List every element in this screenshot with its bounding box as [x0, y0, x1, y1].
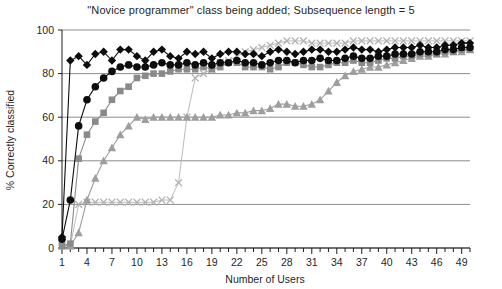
- data-point-circle: [183, 59, 191, 67]
- data-point-circle: [216, 59, 224, 67]
- data-point-diamond: [324, 48, 332, 56]
- data-point-diamond: [66, 56, 74, 64]
- data-point-triangle: [74, 229, 82, 237]
- data-point-diamond: [191, 50, 199, 58]
- data-point-square: [75, 155, 82, 162]
- data-point-diamond: [416, 41, 424, 49]
- data-point-diamond: [224, 48, 232, 56]
- data-point-square: [134, 75, 141, 82]
- y-axis-tick-label: 100: [36, 24, 54, 36]
- data-point-circle: [200, 59, 208, 67]
- series-line: [62, 41, 470, 246]
- x-axis-tick-label: 40: [381, 256, 393, 268]
- data-point-circle: [241, 59, 249, 67]
- y-axis-tick-label: 60: [42, 111, 54, 123]
- series-line: [62, 50, 470, 246]
- data-point-triangle: [108, 144, 116, 152]
- series-line: [62, 50, 470, 246]
- x-axis-tick-label: 25: [256, 256, 268, 268]
- x-axis-tick-label: 4: [84, 256, 90, 268]
- data-point-triangle: [333, 78, 341, 86]
- data-point-square: [275, 64, 282, 71]
- series-line: [62, 47, 470, 239]
- data-point-circle: [191, 61, 199, 69]
- x-axis-tick-label: 28: [281, 256, 293, 268]
- data-point-square: [308, 64, 315, 71]
- data-point-square: [150, 70, 157, 77]
- data-point-diamond: [291, 50, 299, 58]
- data-point-square: [84, 131, 91, 138]
- data-point-triangle: [91, 174, 99, 182]
- data-point-square: [142, 72, 149, 79]
- y-axis-tick-label: 40: [42, 154, 54, 166]
- x-axis-tick-label: 43: [406, 256, 418, 268]
- data-point-circle: [316, 55, 324, 63]
- data-point-circle: [275, 57, 283, 65]
- data-point-square: [59, 243, 66, 250]
- data-point-circle: [341, 55, 349, 63]
- data-point-circle: [166, 61, 174, 69]
- data-point-diamond: [91, 50, 99, 58]
- x-axis-tick-label: 10: [131, 256, 143, 268]
- chart-plot-svg: 020406080100 147101316192225283134374043…: [0, 0, 502, 289]
- data-point-diamond: [116, 45, 124, 53]
- x-axis-tick-label: 7: [109, 256, 115, 268]
- series-line: [62, 43, 470, 237]
- x-axis-tick-label: 16: [181, 256, 193, 268]
- data-point-diamond: [258, 52, 266, 60]
- data-point-circle: [366, 55, 374, 63]
- chart-container: "Novice programmer" class being added; S…: [0, 0, 502, 289]
- data-point-circle: [258, 61, 266, 69]
- data-point-circle: [92, 83, 100, 91]
- x-axis-group: 1471013161922252831343740434649: [59, 248, 470, 268]
- data-point-cross: [258, 44, 265, 51]
- series-group: [58, 38, 474, 250]
- data-point-circle: [133, 63, 141, 71]
- data-point-square: [159, 70, 166, 77]
- data-point-diamond: [383, 45, 391, 53]
- y-axis-tick-label: 80: [42, 67, 54, 79]
- data-point-circle: [108, 68, 116, 76]
- data-point-circle: [283, 57, 291, 65]
- data-point-circle: [266, 59, 274, 67]
- data-point-circle: [150, 61, 158, 69]
- x-axis-tick-label: 19: [206, 256, 218, 268]
- x-axis-tick-label: 22: [231, 256, 243, 268]
- x-axis-tick-label: 49: [456, 256, 468, 268]
- data-point-square: [317, 64, 324, 71]
- data-point-diamond: [249, 50, 257, 58]
- data-point-diamond: [366, 45, 374, 53]
- y-axis-tick-label: 20: [42, 198, 54, 210]
- data-point-circle: [233, 57, 241, 65]
- data-point-diamond: [216, 50, 224, 58]
- data-point-circle: [308, 57, 316, 65]
- data-point-circle: [350, 52, 358, 60]
- data-point-circle: [116, 63, 124, 71]
- y-axis-group: 020406080100: [36, 24, 62, 254]
- data-point-circle: [83, 96, 91, 104]
- data-point-square: [125, 83, 132, 90]
- series-triangle: [58, 45, 474, 249]
- data-point-circle: [100, 74, 108, 82]
- data-point-circle: [291, 59, 299, 67]
- data-point-square: [167, 68, 174, 75]
- data-point-circle: [125, 61, 133, 69]
- data-point-square: [117, 88, 124, 95]
- data-point-diamond: [333, 48, 341, 56]
- data-point-square: [184, 66, 191, 73]
- data-point-circle: [75, 122, 83, 130]
- x-axis-title: Number of Users: [225, 273, 304, 285]
- data-point-square: [109, 96, 116, 103]
- data-point-square: [67, 240, 74, 247]
- gridlines-group: [62, 30, 470, 248]
- data-point-square: [92, 118, 99, 125]
- data-point-circle: [325, 57, 333, 65]
- y-axis-title: % Correctly classified: [4, 90, 16, 191]
- data-point-circle: [333, 57, 341, 65]
- x-axis-tick-label: 46: [431, 256, 443, 268]
- data-point-triangle: [308, 100, 316, 108]
- data-point-circle: [358, 55, 366, 63]
- data-point-circle: [67, 196, 75, 204]
- data-point-triangle: [266, 104, 274, 112]
- series-square: [59, 46, 474, 249]
